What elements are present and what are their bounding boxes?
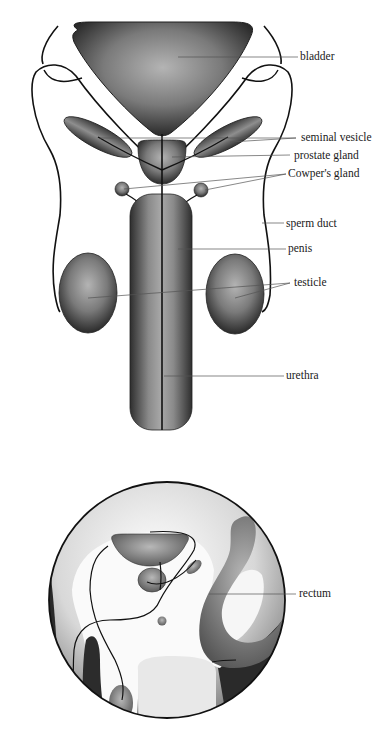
- testicle-left: [59, 253, 117, 333]
- label-penis: penis: [288, 243, 312, 255]
- label-rectum: rectum: [299, 588, 331, 600]
- pelvis-outline-left: [42, 26, 58, 64]
- label-cowpers-gland: Cowper's gland: [288, 168, 359, 180]
- label-prostate-gland: prostate gland: [294, 150, 359, 162]
- pelvis-outline-right: [264, 26, 281, 64]
- penis-shaft: [130, 194, 192, 430]
- front-view: [32, 22, 298, 430]
- side-view-inset: [40, 482, 300, 740]
- testicle-right: [206, 254, 264, 334]
- testicle-side-shape: [109, 685, 133, 721]
- reproductive-system-diagram: [0, 0, 391, 748]
- bladder-shape: [73, 22, 253, 136]
- label-urethra: urethra: [286, 370, 319, 382]
- label-seminal-vesicle: seminal vesicle: [301, 132, 372, 144]
- prostate-side-shape: [138, 568, 166, 592]
- label-sperm-duct: sperm duct: [286, 218, 337, 230]
- label-bladder: bladder: [300, 51, 334, 63]
- label-testicle: testicle: [294, 277, 327, 289]
